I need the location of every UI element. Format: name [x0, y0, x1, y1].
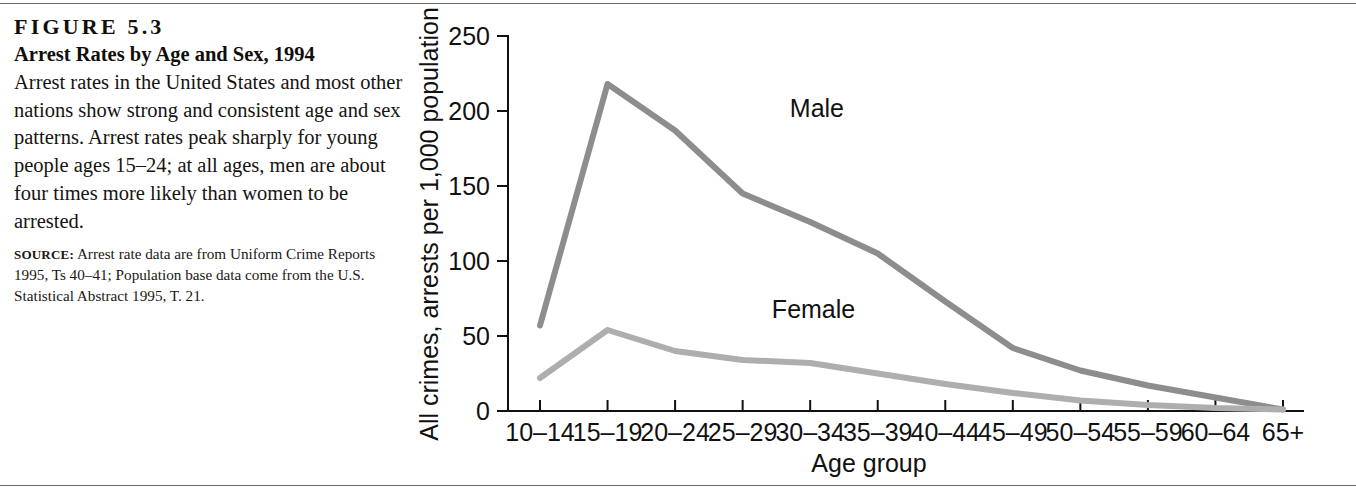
series-line-female — [540, 330, 1283, 410]
y-tick-label: 0 — [476, 397, 490, 425]
x-axis-title: Age group — [811, 449, 926, 477]
y-tick-labels-group: 050100150200250 — [448, 22, 490, 425]
x-tick-label: 10–14 — [505, 418, 575, 446]
figure-caption-block: FIGURE 5.3 Arrest Rates by Age and Sex, … — [14, 14, 406, 307]
series-line-male — [540, 84, 1283, 410]
y-tick-label: 100 — [448, 247, 490, 275]
x-tick-label: 30–34 — [775, 418, 845, 446]
axis-spines — [508, 36, 1303, 411]
x-tick-label: 35–39 — [843, 418, 913, 446]
x-tick-label: 15–19 — [573, 418, 643, 446]
x-tick-label: 50–54 — [1046, 418, 1116, 446]
line-chart: All crimes, arrests per 1,000 population… — [414, 0, 1356, 485]
figure-description: Arrest rates in the United States and mo… — [14, 69, 406, 236]
x-tick-label: 65+ — [1262, 418, 1304, 446]
x-tick-label: 55–59 — [1113, 418, 1183, 446]
y-tick-label: 250 — [448, 22, 490, 50]
x-tick-labels-group: 10–1415–1920–2425–2930–3435–3940–4445–49… — [505, 418, 1304, 446]
series-label-male: Male — [790, 94, 844, 122]
y-tick-label: 200 — [448, 97, 490, 125]
y-tick-label: 150 — [448, 172, 490, 200]
figure-number: FIGURE 5.3 — [14, 14, 406, 39]
x-tick-label: 40–44 — [911, 418, 981, 446]
figure-source-note: SOURCE: Arrest rate data are from Unifor… — [14, 244, 406, 306]
series-lines-group — [540, 84, 1283, 410]
x-tick-label: 25–29 — [708, 418, 778, 446]
bottom-divider-rule — [0, 485, 1356, 486]
y-axis-title-group: All crimes, arrests per 1,000 population — [415, 7, 443, 441]
y-axis-title: All crimes, arrests per 1,000 population — [415, 7, 443, 441]
figure-page: FIGURE 5.3 Arrest Rates by Age and Sex, … — [0, 0, 1356, 497]
series-label-female: Female — [772, 295, 855, 323]
x-tick-label: 60–64 — [1181, 418, 1251, 446]
x-tick-label: 20–24 — [640, 418, 710, 446]
x-tick-label: 45–49 — [978, 418, 1048, 446]
chart-container: All crimes, arrests per 1,000 population… — [414, 0, 1356, 485]
axes-group — [508, 36, 1303, 411]
source-label: SOURCE: — [14, 247, 74, 262]
figure-title: Arrest Rates by Age and Sex, 1994 — [14, 42, 406, 67]
y-tick-label: 50 — [462, 322, 490, 350]
